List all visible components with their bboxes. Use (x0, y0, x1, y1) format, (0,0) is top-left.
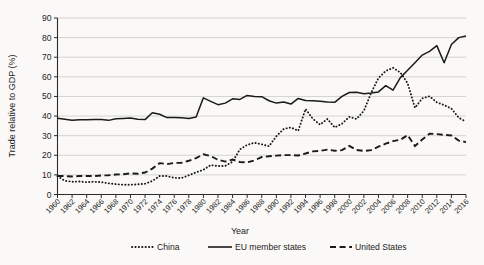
x-axis-title: Year (231, 226, 249, 236)
y-tick-label: 80 (42, 33, 52, 43)
y-tick-label: 60 (42, 72, 52, 82)
chart-legend: ChinaEU member statesUnited States (132, 242, 407, 252)
y-axis-title: Trade relative to GDP (%) (7, 54, 17, 157)
y-tick-label: 70 (42, 52, 52, 62)
legend-label-united-states: United States (355, 242, 407, 252)
y-tick-label: 20 (42, 150, 52, 160)
y-tick-label: 50 (42, 91, 52, 101)
y-tick-label: 90 (42, 13, 52, 23)
line-chart: 0102030405060708090 19601962196419661968… (0, 0, 484, 265)
y-tick-label: 0 (47, 190, 52, 200)
legend-label-eu-member-states: EU member states (235, 242, 306, 252)
y-tick-label: 30 (42, 131, 52, 141)
legend-label-china: China (157, 242, 180, 252)
y-tick-label: 40 (42, 111, 52, 121)
y-tick-label: 10 (42, 170, 52, 180)
